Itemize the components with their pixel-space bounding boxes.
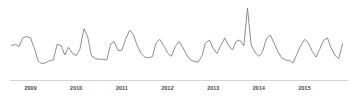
x-tick-label-2012: 2012 — [162, 85, 174, 92]
x-tick-label-2014: 2014 — [253, 85, 265, 92]
x-tick-label-2009: 2009 — [25, 85, 37, 92]
sparkline-chart: 2009201020112012201320142015 — [0, 0, 358, 102]
x-tick-label-2013: 2013 — [207, 85, 219, 92]
time-series-line — [11, 8, 342, 63]
x-tick-label-2011: 2011 — [116, 85, 128, 92]
x-tick-label-2010: 2010 — [70, 85, 82, 92]
x-tick-label-2015: 2015 — [299, 85, 311, 92]
